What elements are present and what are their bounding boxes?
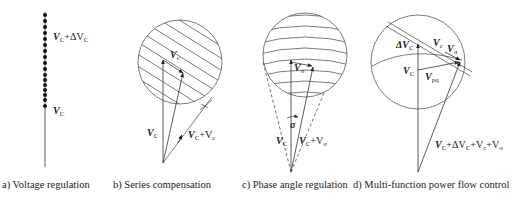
figure-canvas: VC+ΔVC VC a) Voltage regulation Vc VC VC… [0, 0, 515, 201]
panel-c-phase-angle-regulation: Vσ σ VC VC+Vσ c) Phase angle regulation [242, 4, 355, 191]
label-vC: VC [276, 135, 288, 148]
right-dashed-tangent [291, 93, 324, 172]
arc-lines [255, 4, 355, 99]
label-vC: VC [147, 127, 159, 140]
panel-b-series-compensation: Vc VC VC+Vc b) Series compensation [113, 0, 240, 191]
panel-a-voltage-regulation: VC+ΔVC VC a) Voltage regulation [2, 12, 90, 191]
label-vc: Vc [433, 37, 443, 50]
label-vc-plus-dvc: VC+ΔVC [53, 31, 89, 44]
label-vc: VC [53, 105, 65, 118]
caption-c: c) Phase angle regulation [242, 179, 349, 191]
label-vpq: Vpq [425, 71, 439, 84]
sum-direction-arrow [178, 135, 182, 143]
label-vc-small: Vc [170, 49, 180, 62]
sigma-angle-arc [287, 116, 298, 118]
caption-b: b) Series compensation [113, 179, 212, 191]
label-sum: VC+ΔVC+Vc+Vσ [435, 139, 503, 152]
label-sigma: σ [290, 119, 296, 130]
left-dashed-tangent [263, 62, 291, 172]
vc-small-phasor [163, 60, 183, 73]
panel-d-multi-function-power-flow: ΔVC Vc Vσ VC Vpq VC+ΔVC+Vc+Vσ d) Multi-f… [353, 15, 509, 191]
label-vC-plus-vsigma: VC+Vσ [299, 135, 327, 148]
operating-circle [263, 13, 347, 97]
caption-a: a) Voltage regulation [2, 179, 90, 191]
label-vC: VC [403, 65, 415, 78]
hatch-lines [120, 0, 240, 154]
label-vC-plus-vc: VC+Vc [188, 129, 215, 142]
caption-d: d) Multi-function power flow control [353, 179, 509, 191]
